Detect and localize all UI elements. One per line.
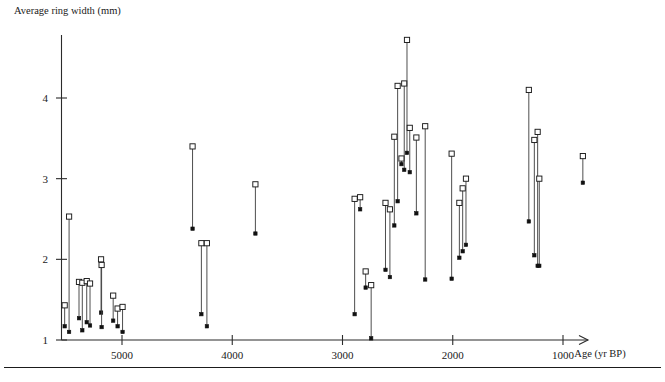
range-group (62, 303, 67, 328)
upper-value-marker (115, 306, 120, 311)
upper-value-marker (204, 241, 209, 246)
upper-value-marker (402, 81, 407, 86)
upper-value-marker (99, 262, 104, 267)
lower-value-marker (461, 250, 464, 253)
upper-value-marker (387, 207, 392, 212)
y-tick-label: 1 (43, 334, 49, 346)
lower-value-marker (384, 268, 387, 271)
lower-value-marker (205, 325, 208, 328)
upper-value-marker (253, 182, 258, 187)
upper-value-marker (463, 176, 468, 181)
range-group (352, 196, 357, 316)
lower-value-marker (396, 200, 399, 203)
upper-value-marker (62, 303, 67, 308)
range-group (358, 195, 363, 211)
lower-value-marker (200, 312, 203, 315)
range-group (532, 137, 537, 257)
lower-value-marker (99, 311, 102, 314)
upper-value-marker (404, 37, 409, 42)
lower-value-marker (254, 232, 257, 235)
range-group (99, 262, 104, 328)
x-tick-label: 1000 (552, 349, 575, 361)
lower-value-marker (121, 330, 124, 333)
lower-value-marker (191, 227, 194, 230)
upper-value-marker (407, 125, 412, 130)
lower-value-marker (100, 325, 103, 328)
axes (62, 35, 589, 345)
range-group (392, 134, 397, 227)
lower-value-marker (77, 317, 80, 320)
range-group (369, 283, 374, 341)
range-group (87, 281, 92, 327)
figure-panel: Average ring width (mm) 1234500040003000… (0, 0, 665, 382)
lower-value-marker (527, 220, 530, 223)
upper-value-marker (87, 281, 92, 286)
lower-value-marker (81, 329, 84, 332)
range-group (580, 153, 585, 184)
lower-value-marker (405, 151, 408, 154)
upper-value-marker (580, 153, 585, 158)
lower-value-marker (353, 312, 356, 315)
footer-rule (4, 367, 661, 368)
range-group (395, 83, 400, 203)
y-axis-title: Average ring width (mm) (14, 5, 121, 17)
upper-value-marker (98, 257, 103, 262)
lower-value-marker (358, 208, 361, 211)
lower-value-marker (403, 168, 406, 171)
range-group (199, 241, 204, 316)
upper-value-marker (66, 214, 71, 219)
upper-value-marker (199, 241, 204, 246)
upper-value-marker (369, 283, 374, 288)
upper-value-marker (457, 200, 462, 205)
upper-value-marker (383, 200, 388, 205)
upper-value-marker (392, 134, 397, 139)
range-group (399, 156, 404, 166)
range-group (449, 151, 454, 280)
lower-value-marker (533, 254, 536, 257)
range-group (387, 207, 392, 279)
x-axis-title: Age (yr BP) (574, 348, 626, 360)
upper-value-marker (352, 196, 357, 201)
lower-value-marker (464, 243, 467, 246)
upper-value-marker (363, 269, 368, 274)
lower-value-marker (67, 330, 70, 333)
lower-value-marker (415, 212, 418, 215)
range-group (404, 37, 409, 154)
y-tick-label: 4 (43, 92, 49, 104)
upper-value-marker (532, 137, 537, 142)
upper-value-marker (449, 151, 454, 156)
lower-value-marker (393, 224, 396, 227)
x-tick-label: 4000 (221, 349, 244, 361)
lower-value-marker (408, 171, 411, 174)
y-tick-label: 3 (43, 173, 49, 185)
upper-value-marker (395, 83, 400, 88)
range-group (120, 304, 125, 333)
upper-value-marker (358, 195, 363, 200)
upper-value-marker (526, 87, 531, 92)
upper-value-marker (120, 304, 125, 309)
lower-value-marker (388, 275, 391, 278)
lower-value-marker (63, 325, 66, 328)
lower-value-marker (423, 278, 426, 281)
x-tick-label: 3000 (332, 349, 355, 361)
lower-value-marker (400, 162, 403, 165)
range-group (363, 269, 368, 289)
range-group (190, 144, 195, 231)
x-tick-label: 5000 (111, 349, 134, 361)
upper-value-marker (460, 186, 465, 191)
lower-value-marker (116, 325, 119, 328)
range-group (80, 280, 85, 332)
upper-value-marker (414, 135, 419, 140)
scatter-plot: Average ring width (mm) 1234500040003000… (0, 0, 665, 382)
lower-value-marker (111, 319, 114, 322)
lower-value-marker (85, 321, 88, 324)
data-marks (62, 37, 585, 340)
upper-value-marker (111, 293, 116, 298)
range-group (66, 214, 71, 334)
lower-value-marker (450, 277, 453, 280)
range-group (253, 182, 258, 236)
lower-value-marker (581, 181, 584, 184)
x-tick-label: 2000 (442, 349, 465, 361)
range-group (407, 125, 412, 174)
lower-value-marker (458, 256, 461, 259)
